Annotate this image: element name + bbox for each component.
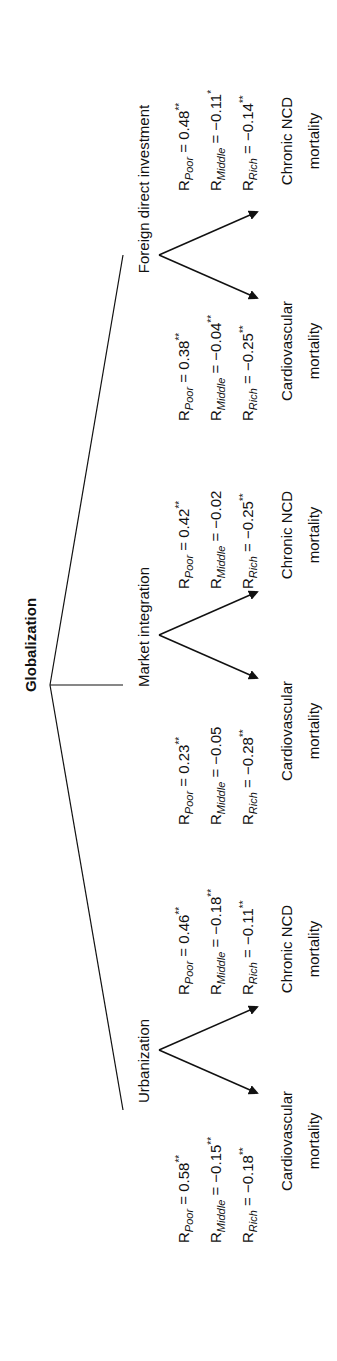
r-values-urbanization-cardiovascular: RPoor = 0.58** RMiddle = −0.15** RRich =… [164, 1137, 260, 1243]
r-row-rich: RRich = −0.25** [228, 315, 260, 421]
r-row-rich: RRich = −0.25** [228, 491, 260, 589]
outcome-urbanization-cardiovascular: Cardiovascular mortality [273, 1091, 327, 1191]
root-title: Globalization [22, 598, 39, 692]
outcome-urbanization-chronic: Chronic NCD mortality [273, 905, 327, 993]
r-values-market-chronic: RPoor = 0.42** RMiddle = −0.02 RRich = −… [164, 491, 260, 589]
r-row-rich: RRich = −0.28** [228, 727, 260, 825]
r-row-rich: RRich = −0.11** [228, 889, 260, 995]
arrow-market-chronic [159, 592, 257, 635]
r-values-urbanization-chronic: RPoor = 0.46** RMiddle = −0.18** RRich =… [164, 889, 260, 995]
r-values-fdi-chronic: RPoor = 0.48** RMiddle = −0.11* RRich = … [164, 90, 260, 191]
globalization-diagram: Globalization Urbanization Market integr… [0, 0, 337, 1361]
r-row-poor: RPoor = 0.23** [164, 727, 196, 825]
edge-to-fdi [50, 255, 123, 685]
branch-label-urbanization: Urbanization [135, 1019, 152, 1103]
r-row-middle: RMiddle = −0.02 [196, 491, 228, 589]
outcome-fdi-chronic: Chronic NCD mortality [273, 97, 327, 185]
branch-label-market-integration: Market integration [135, 567, 152, 687]
branch-label-fdi: Foreign direct investment [135, 105, 152, 273]
arrow-urbanization-cardiovascular [159, 1050, 257, 1093]
r-values-market-cardiovascular: RPoor = 0.23** RMiddle = −0.05 RRich = −… [164, 727, 260, 825]
r-row-middle: RMiddle = −0.18** [196, 889, 228, 995]
r-row-poor: RPoor = 0.48** [164, 90, 196, 191]
r-row-rich: RRich = −0.18** [228, 1137, 260, 1243]
r-row-rich: RRich = −0.14** [228, 90, 260, 191]
outcome-market-cardiovascular: Cardiovascular mortality [273, 681, 327, 781]
edge-to-urbanization [50, 685, 123, 1110]
r-values-fdi-cardiovascular: RPoor = 0.38** RMiddle = −0.04** RRich =… [164, 315, 260, 421]
arrow-urbanization-chronic [159, 1007, 257, 1050]
arrow-fdi-chronic [159, 212, 257, 255]
r-row-middle: RMiddle = −0.15** [196, 1137, 228, 1243]
r-row-poor: RPoor = 0.42** [164, 491, 196, 589]
outcome-market-chronic: Chronic NCD mortality [273, 491, 327, 579]
r-row-middle: RMiddle = −0.11* [196, 90, 228, 191]
outcome-fdi-cardiovascular: Cardiovascular mortality [273, 301, 327, 401]
arrow-market-cardiovascular [159, 635, 257, 678]
r-row-poor: RPoor = 0.58** [164, 1137, 196, 1243]
arrow-fdi-cardiovascular [159, 255, 257, 298]
r-row-poor: RPoor = 0.38** [164, 315, 196, 421]
r-row-middle: RMiddle = −0.05 [196, 727, 228, 825]
r-row-middle: RMiddle = −0.04** [196, 315, 228, 421]
r-row-poor: RPoor = 0.46** [164, 889, 196, 995]
